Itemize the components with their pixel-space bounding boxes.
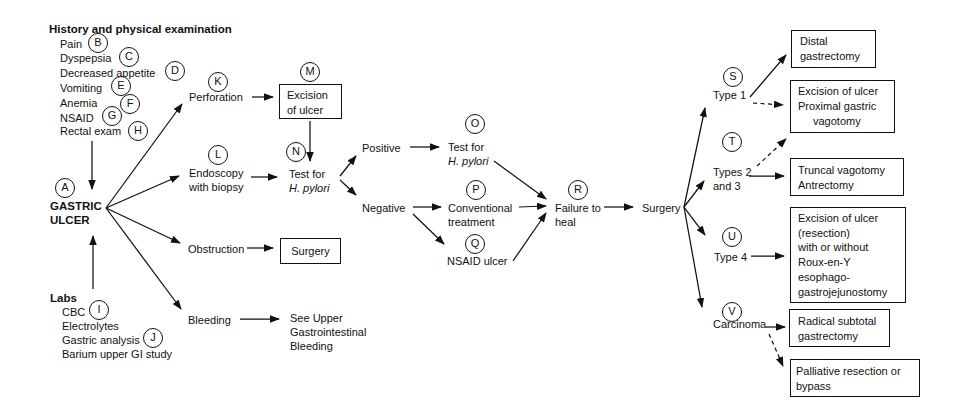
circle-letter-G: G (102, 106, 122, 126)
circle-letter-E: E (111, 76, 131, 96)
failure-line2: heal (555, 215, 601, 229)
endoscopy-line2: with biopsy (189, 180, 243, 194)
circle-letter-A: A (55, 178, 75, 198)
circle-letter-H: H (128, 121, 148, 141)
circle-letter-C: C (119, 47, 139, 67)
outcome-box-palliative-resection-bypass: Palliative resection or bypass (790, 359, 920, 397)
box-excision-line2: of ulcer (287, 103, 334, 118)
labs-item-electrolytes: Electrolytes (62, 319, 119, 333)
circle-letter-U: U (722, 227, 742, 247)
circle-letter-B: B (88, 33, 108, 53)
node-endoscopy: Endoscopy with biopsy (189, 166, 243, 194)
node-surgery: Surgery (642, 201, 681, 215)
node-failure-to-heal: Failure to heal (555, 201, 601, 229)
circle-letter-I: I (89, 300, 109, 320)
node-nsaid-ulcer: NSAID ulcer (447, 254, 508, 268)
test-n-line2: H. pylori (289, 181, 329, 195)
node-test-hpylori-o: Test for H. pylori (448, 140, 488, 168)
failure-line1: Failure to (555, 201, 601, 215)
node-positive: Positive (362, 141, 401, 155)
circle-letter-M: M (300, 62, 320, 82)
circle-letter-S: S (723, 67, 743, 87)
history-item-vomiting: Vomiting (60, 81, 102, 95)
roux-line4: Roux-en-Y (798, 255, 898, 270)
box-excision-of-ulcer: Excision of ulcer (279, 84, 342, 119)
box-surgery: Surgery (280, 238, 341, 264)
test-o-line1: Test for (448, 140, 488, 154)
endoscopy-line1: Endoscopy (189, 166, 243, 180)
types23-line1: Types 2 (713, 165, 752, 179)
history-item-anemia: Anemia (60, 96, 97, 110)
node-types-2-and-3: Types 2 and 3 (713, 165, 752, 193)
excision-prox-line1: Excision of ulcer (798, 84, 887, 99)
excision-prox-line3: vagotomy (798, 114, 887, 129)
circle-letter-Q: Q (465, 234, 485, 254)
excision-prox-line2: Proximal gastric (798, 99, 887, 114)
see-upper-line1: See Upper (290, 311, 366, 325)
history-heading: History and physical examination (49, 22, 232, 36)
conventional-line1: Conventional (448, 201, 512, 215)
roux-line3: with or without (798, 240, 898, 255)
outcome-box-distal-gastrectomy: Distal gastrectomy (791, 30, 876, 68)
conventional-line2: treatment (448, 215, 512, 229)
radical-line2: gastrectomy (798, 329, 881, 344)
labs-item-barium-study: Barium upper GI study (62, 347, 172, 361)
distal-line1: Distal (800, 34, 867, 49)
node-carcinoma: Carcinoma (713, 317, 766, 331)
truncal-line1: Truncal vagotomy (798, 163, 896, 178)
outcome-box-excision-proximal-vagotomy: Excision of ulcer Proximal gastric vagot… (790, 80, 895, 133)
palliative-line1: Palliative resection or (796, 364, 914, 379)
palliative-line2: bypass (796, 379, 914, 394)
roux-line1: Excision of ulcer (798, 211, 898, 226)
flowchart-canvas: History and physical examination Pain Dy… (0, 0, 964, 419)
types23-line2: and 3 (713, 179, 752, 193)
circle-letter-K: K (208, 72, 228, 92)
gastric-ulcer-line2: ULCER (50, 213, 102, 227)
circle-letter-N: N (286, 142, 306, 162)
labs-item-cbc: CBC (62, 305, 85, 319)
node-conventional-treatment: Conventional treatment (448, 201, 512, 229)
distal-line2: gastrectomy (800, 49, 867, 64)
test-n-line1: Test for (289, 167, 329, 181)
history-item-nsaid: NSAID (60, 111, 94, 125)
circle-letter-L: L (208, 145, 228, 165)
outcome-box-excision-roux-en-y: Excision of ulcer (resection) with or wi… (790, 207, 906, 303)
labs-heading: Labs (50, 291, 77, 305)
history-item-dyspepsia: Dyspepsia (60, 51, 111, 65)
labs-item-gastric-analysis: Gastric analysis (62, 333, 140, 347)
see-upper-line2: Gastrointestinal (290, 325, 366, 339)
outcome-box-radical-subtotal-gastrectomy: Radical subtotal gastrectomy (789, 309, 890, 347)
node-obstruction: Obstruction (188, 242, 244, 256)
circle-letter-O: O (465, 114, 485, 134)
gastric-ulcer-line1: GASTRIC (50, 199, 102, 213)
circle-letter-R: R (568, 180, 588, 200)
history-item-rectal-exam: Rectal exam (60, 124, 121, 138)
node-perforation: Perforation (189, 90, 243, 104)
node-test-hpylori-n: Test for H. pylori (289, 167, 329, 195)
roux-line6: gastrojejunostomy (798, 285, 898, 300)
node-bleeding: Bleeding (188, 313, 231, 327)
roux-line2: (resection) (798, 226, 898, 241)
node-gastric-ulcer: GASTRIC ULCER (50, 199, 102, 227)
circle-letter-J: J (143, 328, 163, 348)
node-type-4: Type 4 (714, 250, 747, 264)
truncal-line2: Antrectomy (798, 178, 896, 193)
circle-letter-F: F (120, 94, 140, 114)
history-item-decreased-appetite: Decreased appetite (60, 66, 155, 80)
see-upper-line3: Bleeding (290, 339, 366, 353)
circle-letter-T: T (722, 132, 742, 152)
node-type-1: Type 1 (713, 88, 746, 102)
outcome-box-truncal-vagotomy-antrectomy: Truncal vagotomy Antrectomy (790, 158, 904, 196)
circle-letter-D: D (165, 61, 185, 81)
radical-line1: Radical subtotal (798, 314, 881, 329)
roux-line5: esophago- (798, 270, 898, 285)
test-o-line2: H. pylori (448, 154, 488, 168)
node-see-upper-gi: See Upper Gastrointestinal Bleeding (290, 311, 366, 353)
node-negative: Negative (362, 201, 405, 215)
box-excision-line1: Excision (287, 88, 334, 103)
circle-letter-P: P (466, 180, 486, 200)
history-item-pain: Pain (60, 37, 82, 51)
